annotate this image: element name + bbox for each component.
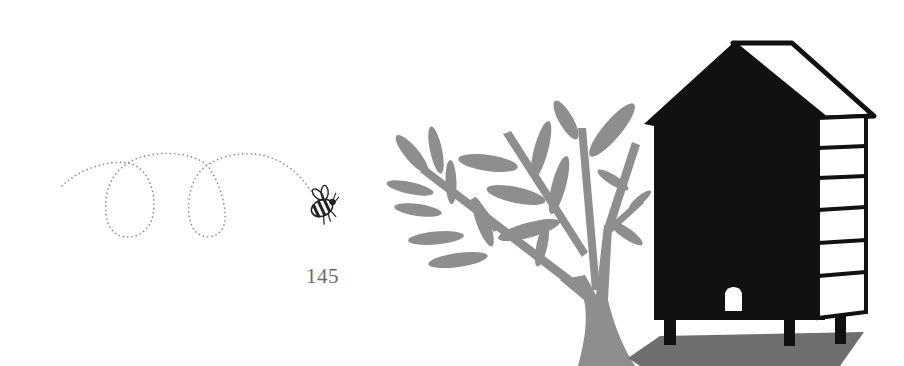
page-number: 145 <box>306 264 366 289</box>
book-page: 145 <box>0 0 904 366</box>
tree <box>385 97 653 366</box>
hive-door <box>725 287 742 311</box>
beehive-illustration <box>0 0 904 366</box>
beehive <box>644 43 874 346</box>
shadow <box>628 332 864 366</box>
bee-flight-path <box>62 154 314 238</box>
bee-icon <box>303 180 347 227</box>
